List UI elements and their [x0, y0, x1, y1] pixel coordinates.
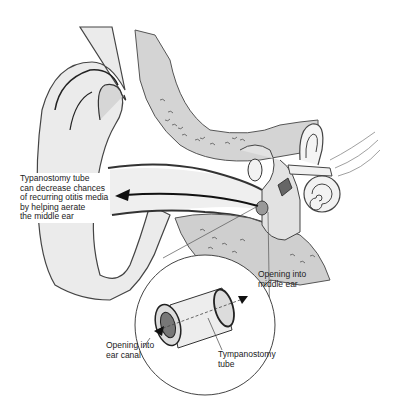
- label-tympanostomy-tube: Tympanostomy tube: [218, 350, 276, 369]
- tube-in-eardrum: [256, 201, 268, 215]
- temporal-bone-upper: [135, 30, 318, 161]
- inner-ear: [288, 124, 380, 212]
- label-opening-ear-canal: Opening into ear canal: [106, 341, 154, 360]
- label-opening-middle-ear: Opening into middle ear: [258, 270, 306, 289]
- magnified-inset: [135, 255, 275, 395]
- cochlea: [304, 176, 340, 212]
- ear-canal: [108, 164, 262, 222]
- caption-main: Typanostomy tube can decrease chances of…: [18, 173, 110, 223]
